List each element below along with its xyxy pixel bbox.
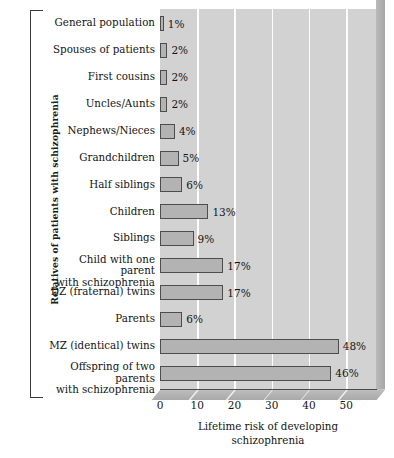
category-label: Grandchildren xyxy=(45,152,155,164)
bar-value-label: 17% xyxy=(227,287,250,299)
bar xyxy=(160,231,194,246)
category-label: MZ (identical) twins xyxy=(45,340,155,352)
category-label: Siblings xyxy=(45,232,155,244)
bar-row: 6% xyxy=(160,312,376,327)
bar-value-label: 17% xyxy=(227,260,250,272)
gridline-20 xyxy=(234,9,236,390)
category-label: Uncles/Aunts xyxy=(45,98,155,110)
bar xyxy=(160,124,175,139)
bar xyxy=(160,258,223,273)
bar xyxy=(160,339,339,354)
bar-value-label: 6% xyxy=(186,179,203,191)
category-label: Half siblings xyxy=(45,179,155,191)
category-label: Children xyxy=(45,206,155,218)
bar-row: 9% xyxy=(160,231,376,246)
gridline-50 xyxy=(346,9,348,390)
y-axis-bracket xyxy=(30,10,43,398)
bar xyxy=(160,285,223,300)
gridline-10 xyxy=(197,9,199,390)
bar xyxy=(160,204,208,219)
bar-value-label: 2% xyxy=(171,44,188,56)
category-label: Nephews/Nieces xyxy=(45,125,155,137)
category-label: Child with one parent with schizophrenia xyxy=(45,254,155,289)
y-axis-title: Relatives of patients with schizophrenia xyxy=(49,50,60,350)
bar-value-label: 4% xyxy=(179,125,196,137)
bar xyxy=(160,177,182,192)
chart-figure: Relatives of patients with schizophrenia… xyxy=(0,0,394,458)
bar xyxy=(160,151,179,166)
bar-row: 1% xyxy=(160,16,376,31)
category-label: General population xyxy=(45,17,155,29)
bar-value-label: 48% xyxy=(343,340,366,352)
bar-row: 2% xyxy=(160,97,376,112)
bar-value-label: 5% xyxy=(183,152,200,164)
gridline-40 xyxy=(309,9,311,390)
x-tick-label-10: 10 xyxy=(191,399,204,411)
bar-value-label: 9% xyxy=(198,233,215,245)
bar-value-label: 46% xyxy=(335,367,358,379)
bar xyxy=(160,70,167,85)
bar-row: 48% xyxy=(160,339,376,354)
bar-row: 46% xyxy=(160,366,376,381)
bar-value-label: 2% xyxy=(171,71,188,83)
x-tick-label-40: 40 xyxy=(302,399,315,411)
category-label: Parents xyxy=(45,313,155,325)
bar-value-label: 2% xyxy=(171,98,188,110)
bar-value-label: 13% xyxy=(212,206,235,218)
category-label: Spouses of patients xyxy=(45,44,155,56)
bar xyxy=(160,97,167,112)
x-tick-label-50: 50 xyxy=(340,399,353,411)
bar xyxy=(160,43,167,58)
bar xyxy=(160,16,164,31)
bar-row: 17% xyxy=(160,258,376,273)
x-tick-label-0: 0 xyxy=(157,399,164,411)
bar-value-label: 6% xyxy=(186,313,203,325)
bar-row: 13% xyxy=(160,204,376,219)
x-axis-title: Lifetime risk of developing schizophreni… xyxy=(160,420,376,447)
bar-row: 4% xyxy=(160,124,376,139)
bar-row: 5% xyxy=(160,151,376,166)
category-label: First cousins xyxy=(45,71,155,83)
bar xyxy=(160,366,331,381)
x-axis-baseline xyxy=(160,389,377,390)
bar-row: 2% xyxy=(160,43,376,58)
bar xyxy=(160,312,182,327)
plot-3d-right-panel xyxy=(376,0,385,390)
category-label: DZ (fraternal) twins xyxy=(45,286,155,298)
bar-row: 2% xyxy=(160,70,376,85)
plot-area xyxy=(160,9,376,390)
gridline-30 xyxy=(272,9,274,390)
bar-row: 6% xyxy=(160,177,376,192)
x-tick-label-20: 20 xyxy=(228,399,241,411)
x-tick-label-30: 30 xyxy=(265,399,278,411)
bar-value-label: 1% xyxy=(168,18,185,30)
category-label: Offspring of two parents with schizophre… xyxy=(45,361,155,396)
bar-row: 17% xyxy=(160,285,376,300)
